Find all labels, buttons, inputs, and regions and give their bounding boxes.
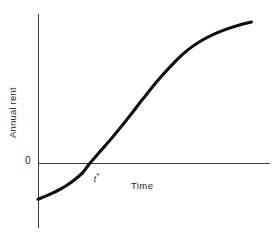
t-star-annotation: t* — [94, 172, 100, 184]
y-axis-zero-tick-label: 0 — [25, 156, 31, 166]
rent-time-chart: Annual rent 0 Time t* — [0, 0, 278, 241]
annual-rent-curve — [38, 22, 251, 199]
chart-plot-area — [0, 0, 278, 241]
data-series-group — [38, 22, 251, 199]
t-star-superscript: * — [96, 171, 99, 180]
axes-group — [39, 14, 271, 228]
y-axis-label: Annual rent — [8, 78, 22, 148]
x-axis-label: Time — [131, 181, 153, 191]
